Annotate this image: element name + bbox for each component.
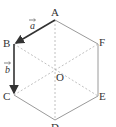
vector-b-label: b bbox=[4, 62, 11, 76]
hexagon-diagram: a b A B C D E F O bbox=[0, 0, 116, 127]
dashed-diagonals bbox=[14, 20, 98, 120]
svg-text:a: a bbox=[30, 20, 35, 31]
center-label-o: O bbox=[56, 71, 64, 83]
edge-fa bbox=[55, 20, 98, 44]
svg-text:b: b bbox=[5, 64, 10, 75]
vertex-label-c: C bbox=[3, 90, 10, 102]
diagonal-cf bbox=[14, 44, 98, 95]
edge-cd bbox=[14, 95, 55, 120]
vertex-label-d: D bbox=[51, 121, 59, 127]
vertex-label-f: F bbox=[99, 36, 105, 48]
vector-a-arrow bbox=[16, 20, 55, 43]
edge-de bbox=[55, 96, 98, 120]
vertex-label-a: A bbox=[51, 6, 59, 18]
vector-a-label: a bbox=[29, 19, 36, 32]
vertex-label-b: B bbox=[3, 37, 10, 49]
vertex-label-e: E bbox=[99, 90, 106, 102]
diagonal-be bbox=[14, 44, 98, 96]
